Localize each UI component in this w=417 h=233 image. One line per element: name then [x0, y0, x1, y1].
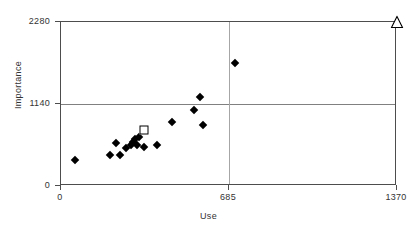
data-point-open-triangle: [391, 16, 404, 29]
x-tick-label-0: 0: [30, 192, 90, 202]
data-point-diamond: [168, 117, 176, 125]
data-point-diamond: [106, 151, 114, 159]
data-point-diamond: [153, 141, 161, 149]
data-point-diamond: [190, 106, 198, 114]
data-point-diamond: [71, 155, 79, 163]
data-point-diamond: [199, 120, 207, 128]
data-point-diamond: [116, 151, 124, 159]
x-axis-title: Use: [0, 211, 417, 221]
scatter-plot-figure: 2280 1140 0 0 685 1370 Use Importance: [0, 0, 417, 233]
x-tick-mark-685: [228, 185, 229, 190]
data-point-diamond: [231, 59, 239, 67]
data-point-diamond: [112, 139, 120, 147]
y-tick-label-1140: 1140: [0, 98, 50, 108]
y-tick-label-2280: 2280: [0, 16, 50, 26]
gridline-x-685: [229, 22, 230, 184]
data-point-open-square: [140, 125, 149, 134]
x-tick-label-685: 685: [198, 192, 258, 202]
x-tick-mark-0: [60, 185, 61, 190]
gridline-y-1140: [61, 104, 395, 105]
x-tick-label-1370: 1370: [366, 192, 417, 202]
data-point-diamond: [140, 143, 148, 151]
data-point-diamond: [196, 93, 204, 101]
x-tick-mark-1370: [396, 185, 397, 190]
y-tick-label-0: 0: [0, 180, 50, 190]
y-axis-title: Importance: [13, 35, 23, 135]
plot-area: [60, 21, 396, 185]
